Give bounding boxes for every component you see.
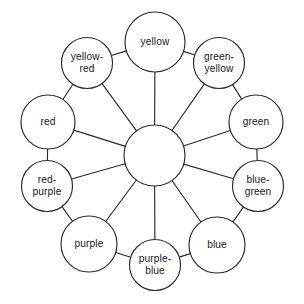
spoke-hub-to-purple bbox=[106, 180, 137, 221]
node-label-line-green-yellow-0: green- bbox=[204, 51, 234, 62]
hub-circle bbox=[124, 125, 185, 186]
node-label-green-yellow: green-yellow bbox=[204, 51, 234, 73]
node-label-line-green-0: green bbox=[243, 116, 270, 127]
node-label-line-yellow-red-1: red bbox=[79, 62, 94, 73]
rim-connector-yellow-to-green-yellow bbox=[184, 51, 195, 55]
node-blue[interactable]: blue bbox=[189, 217, 245, 273]
node-yellow-red[interactable]: yellow-red bbox=[62, 38, 113, 89]
rim-connector-purple-blue-to-purple bbox=[116, 252, 131, 257]
node-label-line-purple-0: purple bbox=[75, 238, 104, 249]
rim-connector-red-to-yellow-red bbox=[63, 84, 73, 99]
rim-connector-purple-to-red-purple bbox=[62, 207, 73, 222]
hub-layer bbox=[124, 125, 185, 186]
spoke-hub-to-blue bbox=[172, 181, 201, 223]
node-label-line-blue-green-0: blue- bbox=[246, 174, 269, 185]
spoke-hub-to-green-yellow bbox=[172, 84, 204, 131]
color-wheel-canvas: yellowgreen-yellowgreenblue-greenbluepur… bbox=[0, 0, 304, 304]
node-label-purple: purple bbox=[75, 238, 104, 249]
node-label-line-green-yellow-1: yellow bbox=[205, 62, 234, 73]
spoke-hub-to-yellow-red bbox=[102, 84, 136, 131]
node-label-blue-green: blue-green bbox=[245, 174, 272, 196]
rim-connector-blue-green-to-blue bbox=[233, 207, 243, 222]
spoke-hub-to-green bbox=[183, 130, 230, 145]
node-green-yellow[interactable]: green-yellow bbox=[194, 38, 245, 89]
spoke-hub-to-blue-green bbox=[184, 164, 234, 179]
spoke-hub-to-red-purple bbox=[72, 164, 126, 179]
node-red[interactable]: red bbox=[21, 95, 75, 149]
rim-connector-yellow-red-to-yellow bbox=[111, 51, 126, 56]
node-label-blue: blue bbox=[207, 239, 227, 250]
rim-connector-blue-to-purple-blue bbox=[179, 254, 190, 258]
node-purple[interactable]: purple bbox=[61, 216, 117, 272]
color-wheel-diagram: yellowgreen-yellowgreenblue-greenbluepur… bbox=[0, 0, 304, 304]
node-label-line-purple-blue-0: purple- bbox=[139, 253, 171, 264]
node-label-line-red-0: red bbox=[40, 116, 55, 127]
node-red-purple[interactable]: red-purple bbox=[22, 161, 73, 212]
node-label-line-yellow-0: yellow bbox=[141, 36, 170, 47]
node-label-line-blue-0: blue bbox=[207, 239, 227, 250]
node-label-line-red-purple-0: red- bbox=[38, 174, 57, 185]
node-purple-blue[interactable]: purple-blue bbox=[130, 240, 181, 291]
node-label-yellow: yellow bbox=[141, 36, 170, 47]
node-label-green: green bbox=[243, 116, 270, 127]
node-label-line-yellow-red-0: yellow- bbox=[71, 51, 103, 62]
node-yellow[interactable]: yellow bbox=[125, 12, 185, 72]
node-label-line-blue-green-1: green bbox=[245, 185, 272, 196]
node-green[interactable]: green bbox=[229, 95, 283, 149]
spoke-hub-to-red bbox=[74, 130, 126, 146]
node-label-line-purple-blue-1: blue bbox=[145, 264, 165, 275]
node-label-red: red bbox=[40, 116, 55, 127]
node-blue-green[interactable]: blue-green bbox=[233, 161, 284, 212]
rim-connector-green-yellow-to-green bbox=[233, 85, 242, 100]
node-label-line-red-purple-1: purple bbox=[33, 185, 62, 196]
